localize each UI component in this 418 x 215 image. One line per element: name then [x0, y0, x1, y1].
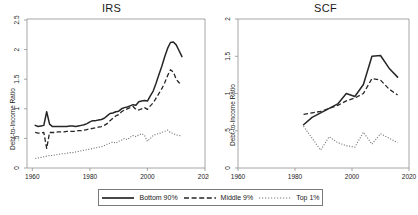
y-tick-irs-1: .5 — [13, 135, 20, 141]
series-scf-top1 — [304, 126, 398, 150]
legend-swatch-solid — [101, 194, 135, 202]
legend-label-middle9: Middle 9% — [221, 194, 254, 201]
legend-label-bottom90: Bottom 90% — [139, 194, 177, 201]
x-tick-irs-1980: 1980 — [83, 173, 98, 180]
plot-scf: 0 .5 1 1.5 2 1960 1980 2000 2020 — [209, 0, 418, 185]
axis-scf: 0 .5 1 1.5 2 1960 1980 2000 2020 — [224, 17, 417, 180]
chart-legend: Bottom 90% Middle 9% Top 1% — [98, 189, 323, 206]
x-tick-irs-2020: 2020 — [198, 173, 209, 180]
x-tick-scf-1960: 1960 — [231, 173, 246, 180]
plot-irs: 0 .5 1 1.5 2 2.5 1960 1980 2000 2020 — [0, 0, 209, 185]
x-tick-irs-2000: 2000 — [140, 173, 155, 180]
y-tick-scf-1: .5 — [224, 128, 231, 134]
series-irs-top1 — [35, 130, 182, 158]
legend-entry-bottom90: Bottom 90% — [101, 194, 177, 202]
x-tick-scf-2020: 2020 — [402, 173, 417, 180]
x-tick-irs-1960: 1960 — [25, 173, 40, 180]
y-tick-irs-4: 2 — [13, 47, 20, 51]
legend-swatch-dotted — [258, 194, 292, 202]
y-tick-scf-3: 1.5 — [224, 51, 231, 60]
x-tick-scf-1980: 1980 — [288, 173, 303, 180]
y-tick-scf-0: 0 — [224, 166, 231, 170]
series-scf-middle9 — [304, 79, 398, 115]
y-tick-scf-4: 2 — [224, 17, 231, 21]
legend-swatch-dashed — [183, 194, 217, 202]
legend-entry-middle9: Middle 9% — [183, 194, 254, 202]
y-tick-scf-2: 1 — [224, 91, 231, 95]
legend-label-top1: Top 1% — [296, 194, 319, 201]
figure-container: IRS Debt-to-Income Ratio 0 .5 1 1.5 2 2.… — [0, 0, 418, 215]
y-tick-irs-0: 0 — [13, 166, 20, 170]
legend-entry-top1: Top 1% — [258, 194, 319, 202]
series-irs-middle9 — [35, 70, 182, 149]
axis-irs: 0 .5 1 1.5 2 2.5 1960 1980 2000 2020 — [13, 15, 209, 180]
chart-panel-scf: SCF Debt-to-Income Ratio 0 .5 1 1.5 2 19… — [209, 0, 418, 185]
y-tick-irs-5: 2.5 — [13, 15, 20, 24]
chart-panel-irs: IRS Debt-to-Income Ratio 0 .5 1 1.5 2 2.… — [0, 0, 209, 185]
series-scf-bottom90 — [304, 56, 398, 125]
series-irs-bottom90 — [35, 42, 182, 127]
y-tick-irs-3: 1.5 — [13, 74, 20, 83]
y-tick-irs-2: 1 — [13, 107, 20, 111]
x-tick-scf-2000: 2000 — [345, 173, 360, 180]
